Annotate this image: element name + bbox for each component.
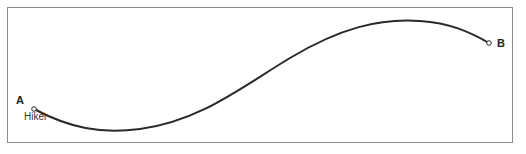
path-diagram (0, 0, 526, 154)
point-a-label: A (16, 95, 24, 106)
point-b-marker (487, 41, 492, 46)
hiking-path-curve (34, 20, 489, 130)
hiker-label: Hiker (24, 112, 47, 122)
point-b-label: B (497, 38, 505, 49)
